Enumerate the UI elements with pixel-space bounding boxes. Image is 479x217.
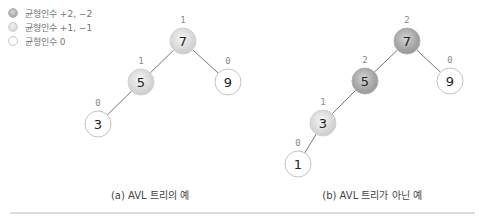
tree-node: 30: [85, 98, 111, 137]
balance-factor-label: 0: [295, 138, 300, 148]
balance-factor-label: 1: [320, 97, 325, 107]
node-value: 3: [94, 117, 102, 132]
tree-edge: [193, 50, 219, 73]
tree-node: 10: [285, 138, 311, 177]
balance-factor-label: 0: [225, 56, 230, 66]
tree-edge: [107, 91, 131, 115]
tree-edge: [305, 134, 316, 153]
node-value: 1: [294, 157, 302, 172]
node-value: 9: [446, 74, 454, 89]
balance-factor-label: 1: [138, 56, 143, 66]
tree-edge: [374, 50, 397, 72]
tree-node: 90: [215, 56, 241, 95]
tree-node: 31: [310, 97, 336, 136]
node-value: 5: [137, 75, 145, 90]
tree-edge: [150, 50, 173, 73]
balance-factor-label: 1: [180, 15, 185, 25]
node-value: 7: [179, 34, 187, 49]
balance-factor-label: 0: [95, 98, 100, 108]
caption-tree-a: (a) AVL 트리의 예: [111, 187, 189, 202]
node-value: 7: [403, 34, 411, 49]
tree-node: 71: [170, 15, 196, 54]
tree-node: 51: [128, 56, 154, 95]
tree-edge: [332, 90, 356, 114]
tree-node: 72: [394, 15, 420, 54]
bottom-divider: [10, 212, 475, 214]
node-value: 5: [361, 74, 369, 89]
node-value: 3: [319, 116, 327, 131]
tree-edge: [417, 50, 441, 72]
tree-node: 52: [352, 55, 378, 94]
balance-factor-label: 0: [447, 55, 452, 65]
tree-node: 90: [437, 55, 463, 94]
caption-tree-b: (b) AVL 트리가 아닌 예: [322, 187, 421, 202]
balance-factor-label: 2: [362, 55, 367, 65]
node-value: 9: [224, 75, 232, 90]
balance-factor-label: 2: [404, 15, 409, 25]
tree-diagram: 715190307252903110: [0, 0, 479, 217]
